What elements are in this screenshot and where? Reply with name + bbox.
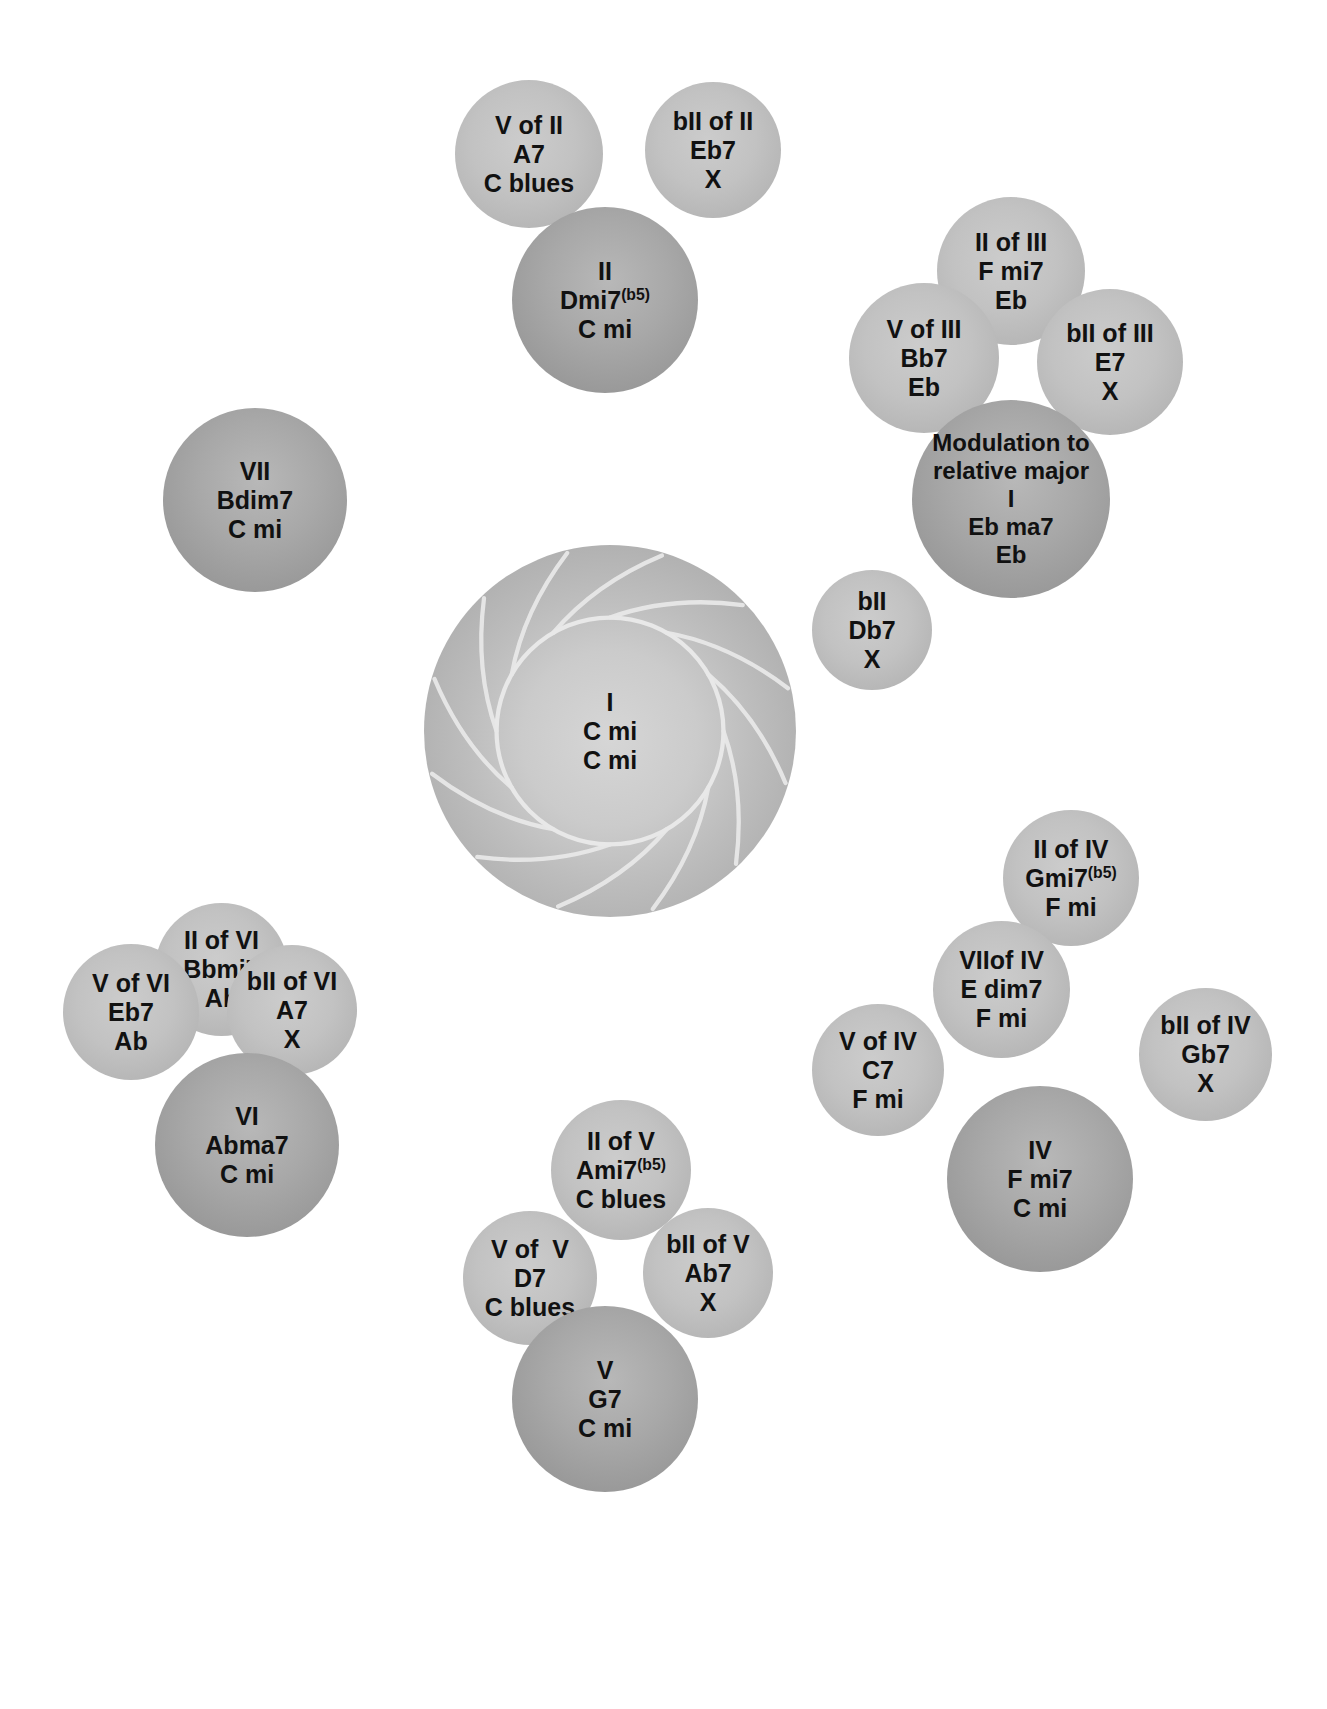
- bubble-label: II of IVGmi7(b5)F mi: [1003, 835, 1139, 922]
- bubble-label-line: C mi: [159, 1160, 335, 1189]
- bubble-label-line: Gmi7(b5): [1007, 864, 1135, 893]
- bubble-label-line: II of V: [555, 1127, 687, 1156]
- tonic-label: IC miC mi: [424, 688, 796, 775]
- bubble-label-line: F mi: [1007, 893, 1135, 922]
- bubble-iii-modulation[interactable]: Modulation torelative majorIEb ma7Eb: [912, 400, 1110, 598]
- bubble-label-line: Bb7: [853, 344, 995, 373]
- bubble-label: II of VAmi7(b5)C blues: [551, 1127, 691, 1214]
- bubble-label: V of VD7C blues: [463, 1235, 597, 1322]
- bubble-label: bII of IIEb7X: [645, 107, 781, 194]
- bubble-label-line: V of II: [459, 111, 599, 140]
- bubble-label-line: II of III: [941, 228, 1081, 257]
- chord-alteration: (b5): [621, 285, 650, 302]
- bubble-label: V of IIA7C blues: [455, 111, 603, 198]
- bubble-label-line: Eb7: [649, 136, 777, 165]
- bubble-label-line: E dim7: [937, 975, 1066, 1004]
- bubble-label: IVF mi7C mi: [947, 1136, 1133, 1223]
- bubble-label-line: C blues: [555, 1185, 687, 1214]
- bubble-label-line: X: [1041, 377, 1179, 406]
- bubble-label-line: Eb7: [67, 998, 195, 1027]
- bubble-vi[interactable]: VIAbma7C mi: [155, 1053, 339, 1237]
- bubble-label-line: VI: [159, 1102, 335, 1131]
- bubble-label-line: V of III: [853, 315, 995, 344]
- bubble-label: Modulation torelative majorIEb ma7Eb: [912, 429, 1110, 568]
- bubble-vii[interactable]: VIIBdim7C mi: [163, 408, 347, 592]
- bubble-bii-of-iv[interactable]: bII of IVGb7X: [1139, 988, 1272, 1121]
- bubble-label: IIDmi7(b5)C mi: [512, 257, 698, 344]
- tonic-label-line: I: [424, 688, 796, 717]
- bubble-label: VG7C mi: [512, 1356, 698, 1443]
- bubble-label-line: X: [649, 165, 777, 194]
- bubble-label: bII of VIA7X: [227, 967, 357, 1054]
- bubble-label-line: F mi7: [951, 1165, 1129, 1194]
- bubble-label: VIIof IVE dim7F mi: [933, 946, 1070, 1033]
- bubble-label-line: C mi: [167, 515, 343, 544]
- bubble-label-line: D7: [467, 1264, 593, 1293]
- bubble-label-line: VII: [167, 457, 343, 486]
- bubble-label-line: Eb: [916, 541, 1106, 569]
- bubble-label-line: bII of III: [1041, 319, 1179, 348]
- bubble-label-line: X: [1143, 1069, 1268, 1098]
- bubble-label: V of VIEb7Ab: [63, 969, 199, 1056]
- bubble-label-line: IV: [951, 1136, 1129, 1165]
- bubble-label-line: Eb ma7: [916, 513, 1106, 541]
- bubble-label-line: X: [816, 645, 928, 674]
- bubble-bii-of-ii[interactable]: bII of IIEb7X: [645, 82, 781, 218]
- bubble-vii-of-iv[interactable]: VIIof IVE dim7F mi: [933, 921, 1070, 1058]
- bubble-label: bIIDb7X: [812, 587, 932, 674]
- bubble-label-line: C blues: [459, 169, 599, 198]
- bubble-label-line: Eb: [853, 373, 995, 402]
- diagram-canvas: V of IIA7C bluesbII of IIEb7XIIDmi7(b5)C…: [0, 0, 1327, 1709]
- bubble-label-line: Bdim7: [167, 486, 343, 515]
- bubble-label-line: V: [516, 1356, 694, 1385]
- bubble-label-line: Ab7: [647, 1259, 769, 1288]
- bubble-label-line: VIIof IV: [937, 946, 1066, 975]
- bubble-bii-of-v[interactable]: bII of VAb7X: [643, 1208, 773, 1338]
- bubble-label-line: bII of VI: [231, 967, 353, 996]
- bubble-label: bII of IVGb7X: [1139, 1011, 1272, 1098]
- bubble-label-line: E7: [1041, 348, 1179, 377]
- bubble-v-of-vi[interactable]: V of VIEb7Ab: [63, 944, 199, 1080]
- bubble-label-line: C mi: [516, 315, 694, 344]
- bubble-label-line: bII of IV: [1143, 1011, 1268, 1040]
- bubble-label-line: G7: [516, 1385, 694, 1414]
- bubble-v-of-ii[interactable]: V of IIA7C blues: [455, 80, 603, 228]
- bubble-label-line: II: [516, 257, 694, 286]
- bubble-label: bII of IIIE7X: [1037, 319, 1183, 406]
- bubble-label-line: Dmi7(b5): [516, 286, 694, 315]
- bubble-label-line: V of V: [467, 1235, 593, 1264]
- bubble-label-line: Modulation to: [916, 429, 1106, 457]
- bubble-label: VIIBdim7C mi: [163, 457, 347, 544]
- bubble-label-line: C7: [816, 1056, 940, 1085]
- bubble-label: V of IIIBb7Eb: [849, 315, 999, 402]
- bubble-label: V of IVC7F mi: [812, 1027, 944, 1114]
- bubble-label-line: Db7: [816, 616, 928, 645]
- bubble-label-line: X: [231, 1025, 353, 1054]
- bubble-label-line: X: [647, 1288, 769, 1317]
- bubble-label-line: bII of II: [649, 107, 777, 136]
- bubble-v[interactable]: VG7C mi: [512, 1306, 698, 1492]
- bubble-label-line: C mi: [951, 1194, 1129, 1223]
- bubble-iv[interactable]: IVF mi7C mi: [947, 1086, 1133, 1272]
- bubble-v-of-iv[interactable]: V of IVC7F mi: [812, 1004, 944, 1136]
- bubble-ii[interactable]: IIDmi7(b5)C mi: [512, 207, 698, 393]
- bubble-label-line: F mi7: [941, 257, 1081, 286]
- chord-alteration: (b5): [1088, 863, 1117, 880]
- bubble-label-line: II of IV: [1007, 835, 1135, 864]
- bubble-label-line: F mi: [816, 1085, 940, 1114]
- bubble-bii[interactable]: bIIDb7X: [812, 570, 932, 690]
- bubble-label-line: F mi: [937, 1004, 1066, 1033]
- bubble-label-line: C mi: [516, 1414, 694, 1443]
- bubble-label-line: Ami7(b5): [555, 1156, 687, 1185]
- bubble-label-line: bII of V: [647, 1230, 769, 1259]
- bubble-label-line: A7: [459, 140, 599, 169]
- tonic-label-line: C mi: [424, 746, 796, 775]
- bubble-label-line: Ab: [67, 1027, 195, 1056]
- bubble-label-line: Abma7: [159, 1131, 335, 1160]
- bubble-label: bII of VAb7X: [643, 1230, 773, 1317]
- bubble-label-line: I: [916, 485, 1106, 513]
- bubble-label-line: Gb7: [1143, 1040, 1268, 1069]
- bubble-label-line: bII: [816, 587, 928, 616]
- bubble-label-line: V of VI: [67, 969, 195, 998]
- bubble-tonic[interactable]: IC miC mi: [424, 545, 796, 917]
